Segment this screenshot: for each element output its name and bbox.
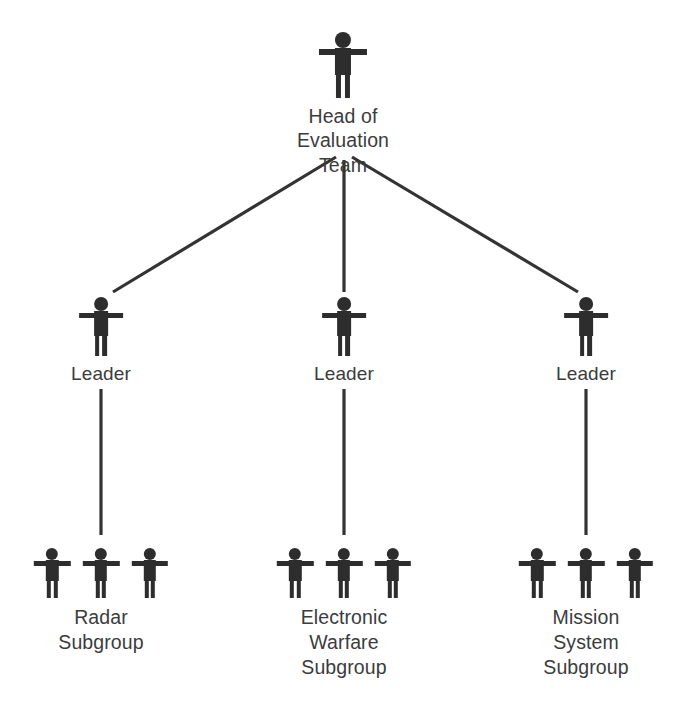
node-leader-electronic-warfare[interactable]: Leader xyxy=(314,297,374,386)
node-head-of-evaluation-team[interactable]: Head of Evaluation Team xyxy=(297,32,389,177)
figure-leg-right xyxy=(102,334,107,356)
label-radar-subgroup: Radar Subgroup xyxy=(34,605,168,655)
figure-leg-left xyxy=(630,579,634,597)
figure-torso xyxy=(95,560,107,581)
figure-head xyxy=(338,548,350,560)
figure-group-leader-radar xyxy=(71,297,131,356)
figure-head xyxy=(94,297,108,311)
figure-head xyxy=(387,548,399,560)
connector-root-to-leader-right xyxy=(352,157,578,292)
figure-leg-right xyxy=(538,579,542,597)
node-electronic-warfare-subgroup[interactable]: Electronic Warfare Subgroup xyxy=(277,548,411,680)
figure-leg-left xyxy=(96,579,100,597)
figure-leg-right xyxy=(587,579,591,597)
figure-head xyxy=(46,548,58,560)
figure-torso xyxy=(144,560,156,581)
person-figure-icon xyxy=(564,297,608,356)
figure-torso xyxy=(94,311,109,336)
figure-leg-right xyxy=(394,579,398,597)
figure-torso xyxy=(387,560,399,581)
figure-leg-right xyxy=(345,73,350,97)
figure-group-radar-subgroup xyxy=(34,548,168,598)
label-electronic-warfare-subgroup: Electronic Warfare Subgroup xyxy=(277,605,411,680)
connector-root-to-leader-left xyxy=(113,157,336,292)
figure-torso xyxy=(337,311,352,336)
node-radar-subgroup[interactable]: Radar Subgroup xyxy=(34,548,168,655)
figure-torso xyxy=(338,560,350,581)
label-mission-system-subgroup: Mission System Subgroup xyxy=(519,605,653,680)
figure-group-leader-electronic-warfare xyxy=(314,297,374,356)
figure-leg-right xyxy=(53,579,57,597)
person-figure-icon xyxy=(326,548,363,598)
figure-group-electronic-warfare-subgroup xyxy=(277,548,411,598)
label-leader-radar: Leader xyxy=(71,362,131,386)
label-leader-mission-system: Leader xyxy=(556,362,616,386)
person-figure-icon xyxy=(616,548,653,598)
person-figure-icon xyxy=(83,548,120,598)
label-leader-electronic-warfare: Leader xyxy=(314,362,374,386)
person-figure-icon xyxy=(322,297,366,356)
figure-leg-right xyxy=(636,579,640,597)
person-figure-icon xyxy=(34,548,71,598)
node-mission-system-subgroup[interactable]: Mission System Subgroup xyxy=(519,548,653,680)
figure-head xyxy=(580,548,592,560)
label-head-of-evaluation-team: Head of Evaluation Team xyxy=(297,104,389,178)
person-figure-icon xyxy=(374,548,411,598)
figure-leg-left xyxy=(338,334,343,356)
figure-leg-right xyxy=(345,579,349,597)
figure-head xyxy=(335,32,351,48)
figure-group-head-of-evaluation-team xyxy=(297,32,389,98)
figure-leg-left xyxy=(581,579,585,597)
figure-head xyxy=(337,297,351,311)
person-figure-icon xyxy=(79,297,123,356)
figure-leg-right xyxy=(345,334,350,356)
figure-leg-right xyxy=(102,579,106,597)
figure-leg-left xyxy=(336,73,341,97)
figure-torso xyxy=(46,560,58,581)
figure-torso xyxy=(289,560,301,581)
figure-head xyxy=(531,548,543,560)
figure-group-leader-mission-system xyxy=(556,297,616,356)
node-leader-mission-system[interactable]: Leader xyxy=(556,297,616,386)
person-figure-icon xyxy=(277,548,314,598)
figure-head xyxy=(289,548,301,560)
figure-leg-left xyxy=(47,579,51,597)
figure-torso xyxy=(629,560,641,581)
figure-leg-left xyxy=(532,579,536,597)
person-figure-icon xyxy=(131,548,168,598)
figure-torso xyxy=(531,560,543,581)
figure-head xyxy=(144,548,156,560)
figure-torso xyxy=(579,311,594,336)
person-figure-icon xyxy=(568,548,605,598)
figure-leg-left xyxy=(95,334,100,356)
figure-leg-left xyxy=(290,579,294,597)
figure-leg-right xyxy=(587,334,592,356)
person-figure-icon xyxy=(519,548,556,598)
figure-head xyxy=(629,548,641,560)
org-chart-diagram: Head of Evaluation TeamLeaderLeaderLeade… xyxy=(0,0,682,727)
figure-head xyxy=(95,548,107,560)
figure-torso xyxy=(580,560,592,581)
figure-head xyxy=(579,297,593,311)
figure-leg-left xyxy=(580,334,585,356)
figure-leg-left xyxy=(339,579,343,597)
figure-leg-right xyxy=(296,579,300,597)
person-figure-icon xyxy=(319,32,368,98)
figure-group-mission-system-subgroup xyxy=(519,548,653,598)
node-leader-radar[interactable]: Leader xyxy=(71,297,131,386)
figure-leg-left xyxy=(388,579,392,597)
figure-leg-left xyxy=(145,579,149,597)
figure-leg-right xyxy=(151,579,155,597)
figure-torso xyxy=(335,48,351,76)
